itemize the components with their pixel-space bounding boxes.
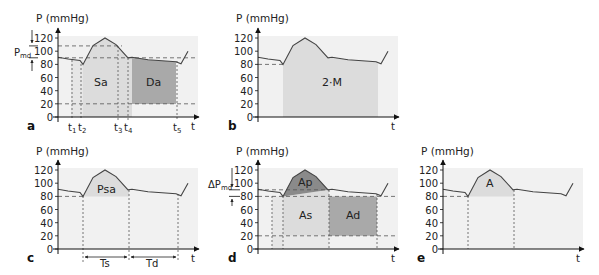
- panel-c: 0 20 40 60 80 100 120 P (mmHg) t c Psa T…: [27, 145, 199, 269]
- t5-sub: 5: [177, 127, 181, 135]
- y-tick-40: 40: [240, 218, 253, 229]
- x-axis-title: t: [391, 253, 395, 264]
- region-label-ad: Ad: [346, 209, 360, 222]
- y-tick-120: 120: [34, 33, 53, 44]
- y-tick-0: 0: [47, 244, 53, 255]
- region-below-20: [283, 236, 329, 249]
- delta-pmd-sub: md: [221, 184, 232, 192]
- panel-d: 0 20 40 60 80 100 120 P (mmHg) t d ΔPmd …: [208, 145, 399, 265]
- svg-text:t5: t5: [173, 122, 181, 135]
- t4-sub: 4: [128, 127, 133, 135]
- pmd-sub: md: [20, 52, 31, 60]
- y-tick-100: 100: [34, 46, 53, 57]
- plot-background: [443, 168, 583, 249]
- x-axis-title: t: [191, 253, 195, 264]
- y-tick-120: 120: [34, 165, 53, 176]
- t1-sub: 1: [72, 127, 76, 135]
- y-tick-0: 0: [432, 244, 438, 255]
- y-tick-80: 80: [240, 59, 253, 70]
- y-tick-60: 60: [425, 205, 438, 216]
- region-label-2m: 2·M: [322, 76, 342, 89]
- y-axis-title: P (mmHg): [236, 12, 289, 24]
- y-tick-100: 100: [419, 178, 438, 189]
- y-tick-labels: 0 20 40 60 80 100 120: [34, 165, 53, 255]
- y-tick-40: 40: [240, 86, 253, 97]
- panel-letter-b: b: [228, 119, 237, 133]
- y-axis-title: P (mmHg): [36, 12, 89, 24]
- y-tick-100: 100: [234, 178, 253, 189]
- svg-text:t4: t4: [124, 122, 133, 135]
- plot-background: [58, 168, 198, 249]
- panel-letter-c: c: [27, 251, 34, 265]
- x-axis-title: t: [191, 121, 195, 132]
- t2-sub: 2: [82, 127, 86, 135]
- y-tick-80: 80: [240, 191, 253, 202]
- region-label-da: Da: [146, 76, 161, 89]
- svg-text:t1: t1: [68, 122, 76, 135]
- y-tick-20: 20: [425, 231, 438, 242]
- x-axis-title: t: [576, 253, 580, 264]
- panel-letter-e: e: [417, 251, 425, 265]
- y-axis-title: P (mmHg): [421, 145, 474, 157]
- y-axis-title: P (mmHg): [236, 145, 289, 157]
- y-tick-labels: 0 20 40 60 80 100 120: [34, 33, 53, 123]
- y-tick-20: 20: [240, 99, 253, 110]
- td-label: Td: [145, 258, 158, 269]
- y-tick-80: 80: [40, 59, 53, 70]
- t3-sub: 3: [118, 127, 122, 135]
- region-label-ap: Ap: [298, 176, 313, 189]
- ts-label: Ts: [99, 258, 110, 269]
- panel-e: 0 20 40 60 80 100 120 P (mmHg) t e A: [417, 145, 584, 265]
- y-tick-120: 120: [419, 165, 438, 176]
- y-tick-40: 40: [40, 218, 53, 229]
- y-tick-60: 60: [240, 73, 253, 84]
- y-tick-100: 100: [34, 178, 53, 189]
- x-axis-title: t: [391, 121, 395, 132]
- y-tick-20: 20: [240, 231, 253, 242]
- y-tick-40: 40: [40, 86, 53, 97]
- y-tick-80: 80: [40, 191, 53, 202]
- y-tick-labels: 0 20 40 60 80 100 120: [234, 165, 253, 255]
- region-label-psa: Psa: [97, 183, 116, 196]
- panel-b: 0 20 40 60 80 100 120 P (mmHg) t b 2·M: [228, 12, 399, 133]
- panel-letter-d: d: [228, 251, 237, 265]
- svg-text:ΔPmd: ΔPmd: [208, 179, 232, 192]
- y-tick-60: 60: [40, 73, 53, 84]
- region-t1-t2: [272, 196, 283, 249]
- y-tick-40: 40: [425, 218, 438, 229]
- y-tick-80: 80: [425, 191, 438, 202]
- y-tick-0: 0: [247, 244, 253, 255]
- y-tick-120: 120: [234, 33, 253, 44]
- y-tick-0: 0: [247, 112, 253, 123]
- region-label-as: As: [299, 209, 313, 222]
- y-tick-labels: 0 20 40 60 80 100 120: [234, 33, 253, 123]
- y-tick-60: 60: [240, 205, 253, 216]
- y-axis-title: P (mmHg): [36, 145, 89, 157]
- panel-letter-a: a: [27, 119, 35, 133]
- y-tick-20: 20: [40, 99, 53, 110]
- time-labels: t1 t2 t3 t4 t5: [68, 122, 181, 135]
- region-label-sa: Sa: [94, 76, 108, 89]
- y-tick-120: 120: [234, 165, 253, 176]
- y-tick-60: 60: [40, 205, 53, 216]
- svg-text:t2: t2: [78, 122, 86, 135]
- y-tick-100: 100: [234, 46, 253, 57]
- figure-canvas: 0 20 40 60 80 100 120 P (mmHg) t a Pmd S…: [0, 0, 599, 275]
- y-tick-0: 0: [47, 112, 53, 123]
- y-tick-labels: 0 20 40 60 80 100 120: [419, 165, 438, 255]
- delta-pmd-label: ΔP: [208, 179, 221, 190]
- region-label-a: A: [486, 177, 494, 190]
- y-tick-20: 20: [40, 231, 53, 242]
- panel-a: 0 20 40 60 80 100 120 P (mmHg) t a Pmd S…: [14, 12, 199, 135]
- svg-text:t3: t3: [114, 122, 122, 135]
- svg-text:Pmd: Pmd: [14, 47, 31, 60]
